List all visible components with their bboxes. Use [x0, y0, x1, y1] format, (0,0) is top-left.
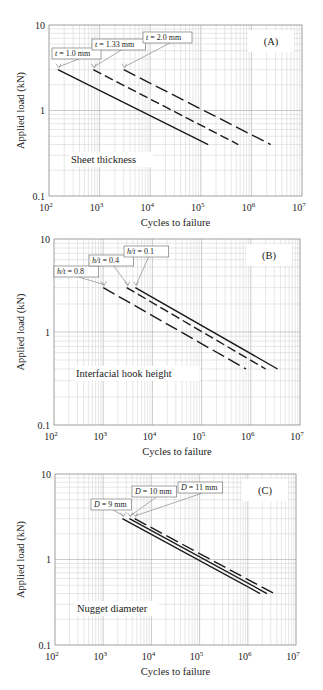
- series-label: h/t = 0.1: [127, 247, 154, 256]
- series-line: [124, 70, 271, 145]
- series-label: h/t = 0.8: [57, 267, 84, 276]
- y-axis-label: Applied load (kN): [15, 521, 27, 598]
- x-tick-label: 107: [286, 650, 300, 662]
- chart-panel-b: 1021031041051061070.1110Cycles to failur…: [15, 234, 304, 458]
- y-tick-label: 10: [35, 20, 45, 31]
- y-tick-label: 0.1: [33, 191, 46, 202]
- x-tick-label: 103: [93, 430, 107, 442]
- fatigue-life-charts: 1021031041051061070.1110Cycles to failur…: [0, 0, 323, 690]
- y-axis-label: Applied load (kN): [15, 72, 27, 149]
- chart-annotation: Sheet thickness: [71, 154, 136, 165]
- x-tick-label: 107: [292, 201, 306, 213]
- arrow-head-icon: [101, 282, 106, 286]
- panel-label: (A): [264, 36, 279, 48]
- x-axis-label: Cycles to failure: [141, 666, 211, 677]
- series-label: D = 11 mm: [180, 483, 218, 492]
- x-tick-label: 102: [44, 430, 58, 442]
- series-label: D = 9 mm: [93, 500, 128, 509]
- x-tick-label: 104: [143, 430, 157, 442]
- series-label: t = 2.0 mm: [146, 33, 182, 42]
- y-tick-label: 1: [45, 327, 50, 338]
- series-line: [135, 288, 277, 369]
- x-tick-label: 102: [45, 650, 59, 662]
- series-line: [122, 519, 260, 594]
- series-label: t = 1.0 mm: [55, 49, 91, 58]
- y-axis-label: Applied load (kN): [15, 293, 27, 370]
- y-tick-label: 1: [40, 105, 45, 116]
- chart-annotation: Nugget diameter: [77, 603, 148, 614]
- x-axis-label: Cycles to failure: [142, 446, 212, 457]
- x-tick-label: 105: [191, 201, 205, 213]
- y-tick-label: 10: [40, 234, 50, 245]
- panel-label: (C): [258, 485, 273, 497]
- y-tick-label: 10: [41, 469, 51, 480]
- y-tick-label: 0.1: [39, 640, 52, 651]
- x-tick-label: 105: [190, 650, 204, 662]
- label-arrow: [79, 277, 105, 285]
- x-tick-label: 104: [142, 650, 156, 662]
- label-arrow: [114, 266, 128, 285]
- series-line: [135, 519, 274, 594]
- series-line: [103, 288, 246, 369]
- series-label: D = 10 mm: [134, 487, 173, 496]
- arrow-head-icon: [56, 64, 61, 68]
- chart-panel-a: 1021031041051061070.1110Cycles to failur…: [15, 20, 306, 229]
- x-tick-label: 102: [39, 201, 53, 213]
- chart-annotation: Interfacial hook height: [76, 368, 172, 379]
- arrow-head-icon: [91, 64, 96, 68]
- series-label: t = 1.33 mm: [95, 40, 135, 49]
- x-tick-label: 104: [140, 201, 154, 213]
- figure: 1021031041051061070.1110Cycles to failur…: [0, 0, 323, 690]
- x-tick-label: 103: [93, 650, 107, 662]
- chart-panel-c: 1021031041051061070.1110Cycles to failur…: [15, 469, 300, 678]
- x-tick-label: 105: [192, 430, 206, 442]
- x-tick-label: 103: [90, 201, 104, 213]
- x-tick-label: 106: [238, 650, 252, 662]
- y-tick-label: 0.1: [38, 420, 51, 431]
- arrow-head-icon: [127, 513, 132, 517]
- series-label: h/t = 0.4: [92, 256, 119, 265]
- x-tick-label: 107: [290, 430, 304, 442]
- x-tick-label: 106: [242, 201, 256, 213]
- panel-label: (B): [262, 250, 277, 262]
- y-tick-label: 1: [46, 554, 51, 565]
- x-axis-label: Cycles to failure: [141, 217, 211, 228]
- x-tick-label: 106: [241, 430, 255, 442]
- label-arrow: [59, 59, 79, 67]
- series-line: [129, 519, 267, 594]
- label-arrow: [136, 257, 148, 285]
- arrow-head-icon: [122, 64, 127, 68]
